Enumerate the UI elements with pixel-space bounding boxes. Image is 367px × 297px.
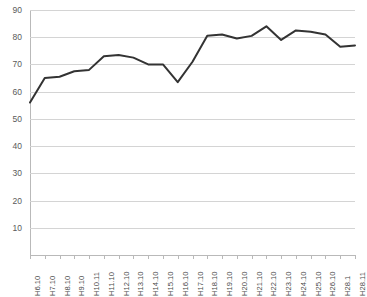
y-tick-10: 10 [0,223,22,233]
series-line [30,26,355,102]
y-tick-40: 40 [0,141,22,151]
x-tick-label: H21.10 [255,258,264,296]
x-tick-label: H18.10 [210,258,219,296]
x-tick-label: H20.10 [240,258,249,296]
x-tick-label: H28.11 [358,258,367,296]
y-tick-80: 80 [0,32,22,42]
y-tick-50: 50 [0,114,22,124]
y-tick-60: 60 [0,87,22,97]
x-tick-label: H12.10 [122,258,131,296]
x-tick-label: H6.10 [33,258,42,296]
x-tick-label: H11.10 [107,258,116,296]
x-tick-label: H17.10 [196,258,205,296]
x-tick-label: H22.10 [269,258,278,296]
x-tick-label: H15.10 [166,258,175,296]
y-tick-30: 30 [0,168,22,178]
y-tick-90: 90 [0,5,22,15]
x-tick-label: H19.10 [225,258,234,296]
x-tick-label: H25.10 [314,258,323,296]
x-tick-label: H9.10 [77,258,86,296]
x-tick-label: H10.11 [92,258,101,296]
x-tick-label: H8.10 [63,258,72,296]
x-tick-label: H16.10 [181,258,190,296]
data-line [30,10,355,256]
x-tick-mark [355,255,356,259]
x-tick-label: H23.10 [284,258,293,296]
x-tick-label: H13.10 [136,258,145,296]
x-tick-label: H26.10 [328,258,337,296]
x-tick-label: H28.1 [343,258,352,296]
x-tick-label: H7.10 [48,258,57,296]
x-tick-label: H14.10 [151,258,160,296]
x-tick-label: H24.10 [299,258,308,296]
plot-area: 908070605040302010 [30,10,355,255]
y-tick-70: 70 [0,59,22,69]
y-tick-20: 20 [0,196,22,206]
x-tick-labels: H6.10H7.10H8.10H9.10H10.11H11.10H12.10H1… [30,258,355,297]
